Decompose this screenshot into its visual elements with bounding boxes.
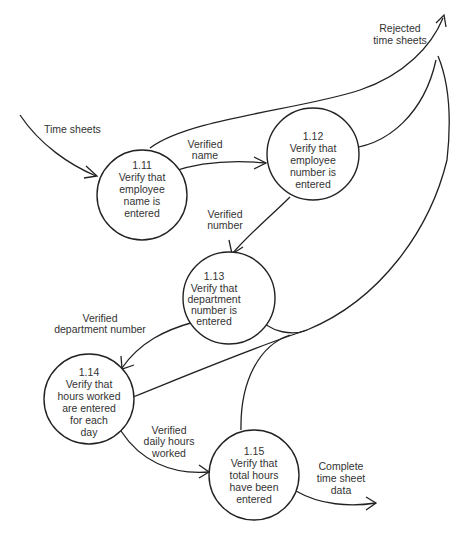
flow-label-line: daily hours (144, 435, 195, 447)
process-label-line: hours worked (57, 390, 120, 402)
process-label-line: name is (124, 195, 161, 207)
process-label-line: Verify that (290, 142, 337, 154)
process-label-line: have been (229, 481, 278, 493)
process-label-line: 1.13 (204, 270, 225, 282)
process-label-line: 1.14 (79, 366, 100, 378)
label-verified-name: Verified name (187, 138, 222, 161)
label-complete-data: Complete time sheet data (317, 460, 366, 496)
process-1-14: 1.14 Verify that hours worked are entere… (44, 354, 134, 444)
flow-label-line: time sheets (373, 34, 427, 46)
process-label-line: entered (236, 493, 272, 505)
process-label-line: 1.12 (303, 130, 324, 142)
process-label-line: Verify that (119, 171, 166, 183)
process-1-15: 1.15 Verify that total hours have been e… (209, 430, 299, 520)
flow-label-line: Time sheets (44, 123, 101, 135)
flow-label-line: data (331, 484, 352, 496)
flow-label-line: name (192, 149, 218, 161)
label-rejected-time-sheets: Rejected time sheets (373, 22, 427, 46)
process-label-line: 1.11 (132, 159, 152, 171)
flow-rejected-from-1-15 (241, 335, 290, 430)
label-verified-daily-hours: Verified daily hours worked (144, 424, 195, 459)
process-label-line: are entered (62, 402, 116, 414)
arrowhead-rejected (436, 15, 446, 27)
flow-rejected-from-1-13 (256, 56, 449, 333)
process-label-line: 1.15 (244, 445, 265, 457)
arrowhead-verified-daily-hours (199, 465, 209, 478)
process-label-line: total hours (229, 469, 278, 481)
process-label-line: employee (119, 183, 165, 195)
process-label-line: number is (290, 166, 336, 178)
flow-label-line: Complete (319, 460, 364, 472)
flow-label-line: number (207, 219, 243, 231)
process-label-line: entered (196, 315, 232, 327)
process-label-line: entered (124, 207, 160, 219)
process-label-line: Verify that (231, 457, 278, 469)
flow-label-line: department number (54, 323, 146, 335)
flow-label-line: time sheet (317, 472, 366, 484)
process-1-12: 1.12 Verify that employee number is ente… (267, 108, 359, 200)
flow-label-line: Rejected (379, 22, 421, 34)
flow-label-line: worked (151, 447, 186, 459)
flow-verified-name (171, 162, 266, 172)
process-label-line: Verify that (66, 378, 113, 390)
data-flow-diagram: 1.11 Verify that employee name is entere… (0, 0, 466, 534)
label-verified-department-number: Verified department number (54, 312, 146, 335)
process-1-11: 1.11 Verify that employee name is entere… (97, 150, 187, 240)
process-label-line: employee (290, 154, 336, 166)
process-label-line: day (81, 426, 99, 438)
label-time-sheets: Time sheets (44, 123, 101, 135)
process-label-line: entered (295, 178, 331, 190)
process-1-13: 1.13 Verify that department number is en… (183, 252, 275, 344)
label-verified-number: Verified number (207, 208, 243, 231)
process-label-line: for each (70, 414, 108, 426)
